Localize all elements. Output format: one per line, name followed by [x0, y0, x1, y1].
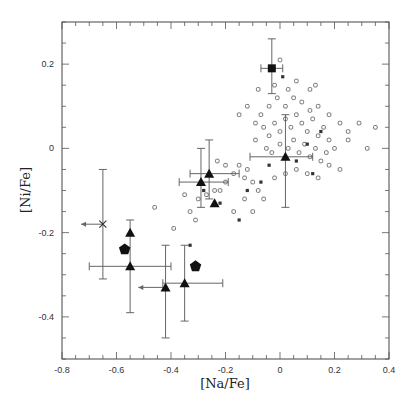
open-marker [346, 130, 350, 134]
open-marker [308, 88, 312, 92]
x-tick-label: 0.4 [383, 365, 396, 375]
y-tick-label: 0 [49, 143, 54, 153]
scatter-chart: -0.8-0.6-0.4-0.200.20.4-0.4-0.200.2 [Na/… [0, 0, 412, 417]
axis-ticks [62, 22, 389, 359]
y-tick-label: -0.2 [38, 228, 54, 238]
open-marker [267, 104, 271, 108]
open-marker [267, 134, 271, 138]
open-marker [278, 130, 282, 134]
open-marker [213, 189, 217, 193]
open-marker [254, 121, 258, 125]
open-marker [243, 176, 247, 180]
open-marker [308, 109, 312, 113]
triangle-marker [125, 228, 135, 237]
open-marker [262, 197, 266, 201]
open-marker [286, 88, 290, 92]
open-marker [183, 193, 187, 197]
open-marker [316, 104, 320, 108]
triangle-marker [210, 198, 220, 207]
open-marker [316, 176, 320, 180]
open-marker [305, 172, 309, 176]
pentagon-marker [190, 260, 201, 271]
open-marker [295, 168, 299, 172]
open-marker [246, 168, 250, 172]
dot-marker [259, 180, 262, 183]
open-marker [259, 113, 263, 117]
dot-marker [238, 218, 241, 221]
pentagon-marker [119, 243, 130, 254]
open-marker [273, 176, 277, 180]
open-marker [275, 96, 279, 100]
open-marker [254, 138, 258, 142]
data-points [81, 39, 377, 338]
open-marker [251, 210, 255, 214]
x-tick-label: -0.8 [54, 365, 70, 375]
x-tick-label: -0.2 [218, 365, 234, 375]
open-marker [327, 163, 331, 167]
open-marker [327, 113, 331, 117]
open-marker [188, 210, 192, 214]
open-marker [311, 117, 315, 121]
y-tick-label: 0.2 [41, 59, 54, 69]
x-tick-label: 0 [277, 365, 282, 375]
axis-tick-labels: -0.8-0.6-0.4-0.200.20.4-0.4-0.200.2 [38, 59, 395, 375]
open-marker [251, 180, 255, 184]
open-marker [237, 163, 241, 167]
open-marker [295, 113, 299, 117]
open-marker [256, 88, 260, 92]
open-marker [194, 218, 198, 222]
open-marker [365, 147, 369, 151]
open-marker [246, 104, 250, 108]
open-marker [256, 189, 260, 193]
open-marker [216, 159, 220, 163]
dot-marker [268, 164, 271, 167]
y-axis-label: [Ni/Fe] [18, 167, 33, 213]
open-marker [265, 147, 269, 151]
open-marker [374, 126, 378, 130]
open-marker [224, 163, 228, 167]
open-marker [284, 104, 288, 108]
arrow-head-icon [81, 222, 86, 227]
dot-marker [281, 75, 284, 78]
open-marker [295, 79, 299, 83]
open-marker [322, 126, 326, 130]
open-marker [357, 121, 361, 125]
dot-marker [218, 202, 221, 205]
open-marker [278, 58, 282, 62]
open-marker [172, 227, 176, 231]
dot-marker [188, 244, 191, 247]
open-marker [319, 159, 323, 163]
dot-marker [246, 189, 249, 192]
dot-marker [319, 130, 322, 133]
open-marker [333, 147, 337, 151]
open-marker [292, 96, 296, 100]
open-marker [243, 197, 247, 201]
open-marker [153, 206, 157, 210]
square-marker [268, 64, 276, 72]
open-marker [316, 134, 320, 138]
open-marker [292, 138, 296, 142]
dot-marker [295, 159, 298, 162]
open-marker [314, 147, 318, 151]
open-marker [196, 197, 200, 201]
plot-frame [62, 22, 389, 359]
open-marker [278, 142, 282, 146]
dot-marker [311, 172, 314, 175]
open-marker [300, 121, 304, 125]
open-marker [325, 151, 329, 155]
y-tick-label: -0.4 [38, 312, 54, 322]
x-axis-label: [Na/Fe] [200, 376, 250, 391]
open-marker [237, 113, 241, 117]
open-marker [262, 126, 266, 130]
x-tick-label: -0.6 [109, 365, 125, 375]
open-marker [338, 168, 342, 172]
open-marker [289, 126, 293, 130]
open-marker [314, 83, 318, 87]
open-marker [205, 193, 209, 197]
open-marker [297, 151, 301, 155]
open-marker [327, 138, 331, 142]
open-marker [300, 100, 304, 104]
open-marker [218, 189, 222, 193]
dot-marker [202, 189, 205, 192]
open-marker [305, 130, 309, 134]
